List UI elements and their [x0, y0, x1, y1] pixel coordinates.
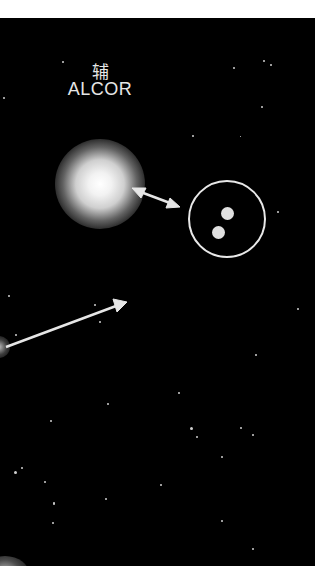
- star: [14, 471, 17, 474]
- star: [15, 334, 17, 336]
- star: [297, 308, 299, 310]
- star: [252, 548, 254, 550]
- star: [3, 97, 5, 99]
- star: [270, 64, 272, 66]
- double-arrow-icon: [132, 188, 180, 208]
- star: [221, 520, 223, 522]
- star: [107, 403, 109, 405]
- star: [221, 456, 223, 458]
- star: [261, 106, 263, 108]
- star: [21, 467, 23, 469]
- star: [252, 434, 254, 436]
- star: [50, 420, 52, 422]
- star: [62, 61, 64, 63]
- star: [160, 484, 162, 486]
- star: [99, 321, 101, 323]
- arrows-layer: [0, 18, 315, 566]
- star: [192, 135, 194, 137]
- star: [255, 354, 257, 356]
- star: [105, 498, 107, 500]
- star: [233, 67, 235, 69]
- star: [94, 304, 96, 306]
- star: [44, 481, 46, 483]
- star: [277, 211, 279, 213]
- star: [263, 60, 265, 62]
- pointer-arrow-icon: [6, 299, 127, 347]
- star: [196, 436, 198, 438]
- star: [178, 392, 180, 394]
- star: [8, 295, 10, 297]
- star: [53, 503, 55, 505]
- night-sky-panel: 辅 ALCOR: [0, 18, 315, 566]
- star: [240, 427, 242, 429]
- star: [190, 427, 193, 430]
- star: [240, 136, 241, 137]
- star: [52, 522, 54, 524]
